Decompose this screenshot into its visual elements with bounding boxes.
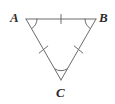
geometry-figure: A B C bbox=[0, 0, 115, 104]
vertex-label-b: B bbox=[99, 11, 108, 24]
angle-arc-b bbox=[85, 19, 90, 28]
tick-mark-side-ac bbox=[39, 46, 48, 53]
vertex-label-a: A bbox=[10, 11, 19, 24]
vertex-label-c: C bbox=[56, 86, 65, 99]
angle-arc-a bbox=[32, 19, 37, 28]
side-tick-marks bbox=[39, 15, 83, 54]
angle-arc-c bbox=[55, 69, 68, 71]
tick-mark-side-bc bbox=[74, 46, 83, 53]
